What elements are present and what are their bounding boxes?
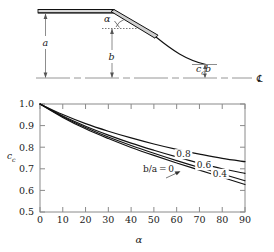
y-tick-label: 1.0 <box>19 98 34 109</box>
ccb-label: ccb <box>196 63 211 77</box>
x-tick-label: 10 <box>57 214 69 225</box>
curve-label-0.4: 0.4 <box>213 169 228 179</box>
y-axis-ticks: 0.50.60.70.80.91.0 <box>19 98 245 217</box>
alpha-label: α <box>104 13 111 24</box>
alpha-angle-arc <box>116 20 124 28</box>
dimension-b-label: b <box>109 51 115 62</box>
x-tick-label: 30 <box>102 214 114 225</box>
x-tick-label: 70 <box>193 214 205 225</box>
cc-vs-alpha-chart: 0.50.60.70.80.91.0 0102030405060708090 c… <box>7 98 251 245</box>
curve-label-0.6: 0.6 <box>197 160 212 170</box>
x-axis-title: α <box>136 234 143 245</box>
y-tick-label: 0.7 <box>19 163 34 174</box>
alpha-leader <box>115 21 120 28</box>
figure-svg: α a b <box>0 0 274 252</box>
x-tick-label: 20 <box>80 214 92 225</box>
y-axis-title: cc <box>7 151 16 163</box>
x-tick-label: 90 <box>239 214 251 225</box>
x-tick-label: 60 <box>171 214 183 225</box>
dimension-a: a <box>40 14 52 79</box>
horizontal-plate <box>38 10 114 13</box>
centerline: ℄ <box>36 73 263 84</box>
y-tick-label: 0.5 <box>19 206 34 217</box>
nappe-trajectory <box>156 37 206 65</box>
y-tick-label: 0.6 <box>19 185 34 196</box>
x-tick-label: 40 <box>125 214 137 225</box>
y-tick-label: 0.8 <box>19 142 34 153</box>
y-tick-label: 0.9 <box>19 120 34 131</box>
figure-container: α a b <box>0 0 274 252</box>
curve-label-0.8: 0.8 <box>176 149 191 159</box>
x-tick-label: 80 <box>216 214 228 225</box>
curve-labels: b/a = 00.40.60.8 <box>140 149 229 179</box>
centerline-symbol-label: ℄ <box>256 73 263 84</box>
curve-label-b-a-0: b/a = 0 <box>143 164 174 174</box>
dimension-a-label: a <box>43 37 49 48</box>
x-tick-label: 50 <box>148 214 160 225</box>
x-tick-label: 0 <box>37 214 43 225</box>
curve-0.8 <box>40 104 245 162</box>
gate-leaf-geometry-diagram: α a b <box>36 10 263 84</box>
dimension-ccb: ccb <box>196 63 211 78</box>
dimension-b: b <box>106 29 118 79</box>
